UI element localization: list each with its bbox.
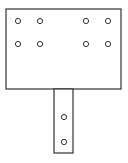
plate-hole-icon	[37, 18, 42, 23]
plate-holes	[15, 18, 110, 46]
stem-bar	[54, 89, 73, 153]
plate-hole-icon	[37, 41, 42, 46]
mounting-plate	[6, 9, 121, 89]
plate-hole-icon	[105, 18, 110, 23]
plate-hole-icon	[15, 18, 20, 23]
bracket-diagram	[0, 0, 128, 163]
plate-hole-icon	[83, 41, 88, 46]
plate-hole-icon	[83, 18, 88, 23]
plate-hole-icon	[15, 41, 20, 46]
plate-hole-icon	[105, 41, 110, 46]
